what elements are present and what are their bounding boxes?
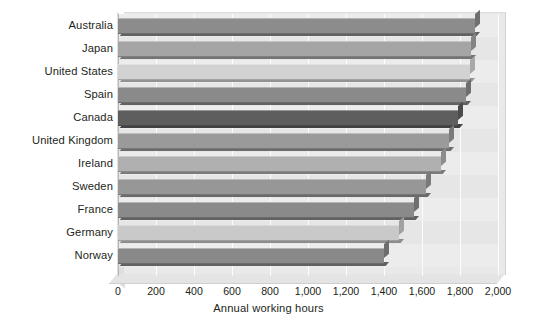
bar-front-face (118, 64, 470, 80)
category-label: Ireland (78, 152, 113, 175)
value-axis-tick-label: 1,000 (295, 284, 322, 298)
value-axis-tick-label: 2,000 (485, 284, 512, 298)
bar-front-face (118, 87, 466, 103)
bar (118, 110, 458, 124)
bar (118, 133, 449, 147)
bar-front-face (118, 248, 384, 264)
bar (118, 179, 426, 193)
bar-front-face (118, 41, 471, 57)
bar-front-face (118, 225, 399, 241)
value-axis-ticks: 02004006008001,0001,2001,4001,6001,8002,… (0, 284, 537, 300)
bar-front-face (118, 110, 458, 126)
bar (118, 87, 466, 101)
plot-area (118, 14, 498, 276)
bar (118, 202, 414, 216)
value-axis-tick-label: 0 (115, 284, 121, 298)
bar-chart: AustraliaJapanUnited StatesSpainCanadaUn… (0, 0, 537, 322)
gridline (498, 14, 499, 276)
bar-front-face (118, 202, 414, 218)
bar-front-face (118, 18, 475, 34)
value-axis-tick-label: 200 (147, 284, 165, 298)
value-axis-tick-label: 1,800 (447, 284, 474, 298)
category-label: Spain (84, 83, 113, 106)
category-label: United Kingdom (32, 129, 113, 152)
bar (118, 64, 470, 78)
category-label: Japan (82, 37, 113, 60)
category-label: Canada (73, 106, 113, 129)
value-axis-tick-label: 1,400 (371, 284, 398, 298)
bar (118, 225, 399, 239)
value-axis-tick-label: 400 (185, 284, 203, 298)
bar (118, 156, 441, 170)
value-axis-tick-label: 1,600 (409, 284, 436, 298)
bar-front-face (118, 133, 449, 149)
value-axis-tick-label: 600 (223, 284, 241, 298)
bar (118, 41, 471, 55)
category-label: Australia (69, 14, 113, 37)
bar (118, 18, 475, 32)
bar-front-face (118, 156, 441, 172)
bar-front-face (118, 179, 426, 195)
category-label: France (78, 198, 113, 221)
value-axis-tick-label: 800 (261, 284, 279, 298)
value-axis-tick-label: 1,200 (333, 284, 360, 298)
category-label: Germany (66, 221, 113, 244)
bar (118, 248, 384, 262)
category-label: Norway (74, 244, 113, 267)
category-label: United States (45, 60, 113, 83)
category-label: Sweden (72, 175, 113, 198)
x-axis-title: Annual working hours (0, 302, 537, 314)
